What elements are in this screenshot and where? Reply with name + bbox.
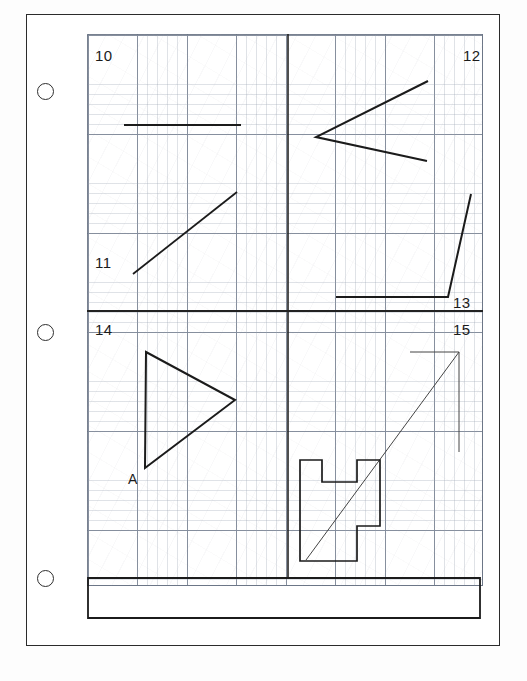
- quadrant-label-14: 14: [95, 322, 113, 337]
- quadrant-label-11: 11: [95, 255, 112, 270]
- vertex-label-a: A: [128, 472, 137, 486]
- graph-paper-grid: [87, 34, 483, 586]
- binder-hole-middle: [37, 324, 54, 341]
- quadrant-label-13: 13: [453, 295, 471, 310]
- caption-fragment: [6, 668, 306, 681]
- binder-hole-bottom: [37, 570, 54, 587]
- scanned-page: 101211131415A: [0, 0, 527, 681]
- quadrant-label-10: 10: [95, 48, 113, 63]
- quadrant-label-12: 12: [463, 48, 481, 63]
- binder-hole-top: [37, 83, 54, 100]
- quadrant-label-15: 15: [453, 322, 471, 337]
